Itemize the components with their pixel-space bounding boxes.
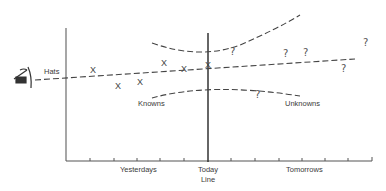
trend-label: Hats — [44, 68, 59, 76]
unknown-point: ? — [283, 49, 288, 59]
unknown-point: ? — [341, 64, 346, 74]
diagram-canvas — [0, 0, 386, 191]
trend-line — [35, 59, 355, 80]
unknown-point: ? — [255, 90, 260, 100]
today-label-line1: Today — [195, 166, 221, 174]
unknowns-label: Unknowns — [285, 100, 320, 108]
eye-icon — [14, 67, 31, 88]
known-point: X — [115, 82, 121, 91]
known-point: X — [181, 65, 187, 74]
today-line-label: Today Line — [195, 166, 221, 183]
known-point: X — [90, 66, 96, 75]
lower-envelope — [152, 89, 300, 98]
upper-envelope — [152, 15, 300, 52]
unknown-point: ? — [363, 38, 368, 48]
knowns-label: Knowns — [138, 100, 165, 108]
today-label-line2: Line — [195, 176, 221, 184]
known-point: X — [205, 61, 211, 70]
known-point: X — [161, 59, 167, 68]
unknown-point: ? — [303, 48, 308, 58]
known-point: X — [137, 78, 143, 87]
unknown-point: ? — [230, 47, 235, 57]
tomorrows-label: Tomorrows — [286, 166, 323, 174]
yesterdays-label: Yesterdays — [120, 166, 157, 174]
